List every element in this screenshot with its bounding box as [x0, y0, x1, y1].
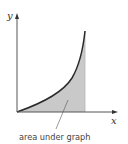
- x-axis-label: x: [111, 115, 117, 126]
- y-axis-arrow-icon: [15, 13, 19, 19]
- y-axis-label: y: [6, 10, 13, 21]
- annotation-label: area under graph: [19, 132, 90, 142]
- area-under-graph-diagram: y x area under graph: [0, 0, 128, 144]
- x-axis-arrow-icon: [112, 110, 118, 114]
